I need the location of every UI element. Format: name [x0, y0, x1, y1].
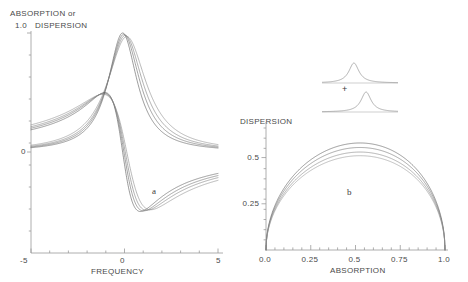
panel-b-ytick-label: 0.25: [243, 199, 260, 208]
panel-b-xtick-label: 0.0: [259, 255, 271, 264]
panel-b-xtick-label: 0.75: [391, 255, 408, 264]
panel-b-xtick-label: 0.5: [349, 255, 361, 264]
panel-b-ytick-label: 0.5: [247, 153, 259, 162]
panel-b-xtick-label: 0.25: [302, 255, 319, 264]
panel-b-xtick-label: 1.0: [438, 255, 450, 264]
inset-plot: [0, 0, 468, 282]
figure-root: ABSORPTION or DISPERSION 1.0 0 -5 0 5 FR…: [0, 0, 468, 282]
